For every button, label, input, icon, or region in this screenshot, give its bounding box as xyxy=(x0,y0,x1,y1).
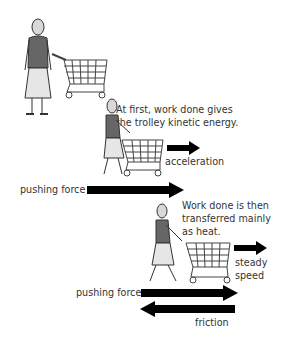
pushing-woman-illustration xyxy=(148,203,188,285)
trolley-illustration xyxy=(52,50,112,100)
caption-line: transferred mainly xyxy=(182,213,271,225)
acceleration-label: acceleration xyxy=(165,156,224,168)
acceleration-arrow-icon xyxy=(167,141,201,155)
friction-arrow-icon xyxy=(140,301,236,317)
caption-line: Work done is then xyxy=(182,200,269,212)
steady-speed-label: speed xyxy=(235,270,264,282)
steady-speed-label: steady xyxy=(235,257,267,269)
pushing-force-arrow-icon xyxy=(141,285,239,301)
trolley-illustration xyxy=(118,132,168,177)
steady-speed-arrow-icon xyxy=(234,241,268,255)
pushing-force-label: pushing force xyxy=(76,287,141,299)
pushing-force-arrow-icon xyxy=(87,182,185,198)
friction-label: friction xyxy=(195,317,229,329)
pushing-force-label: pushing force xyxy=(20,184,85,196)
trolley-illustration xyxy=(184,237,236,285)
